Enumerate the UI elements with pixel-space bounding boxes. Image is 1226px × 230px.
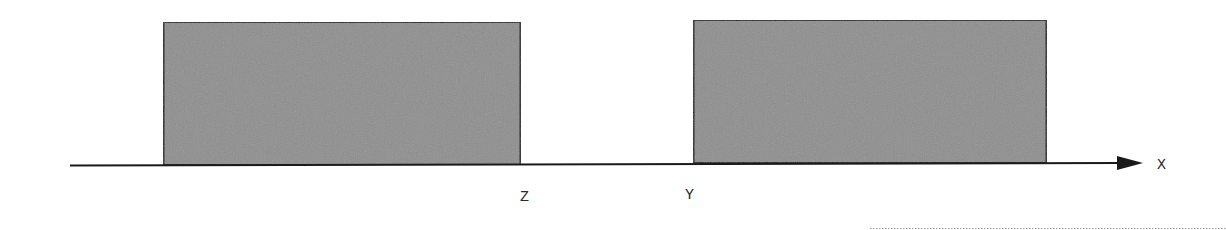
- right-interval-block: [694, 20, 1047, 163]
- label-z: Z: [520, 190, 529, 205]
- diagram-svg: [0, 0, 1226, 230]
- label-x-axis: X: [1157, 158, 1166, 173]
- label-y: Y: [685, 188, 694, 203]
- left-interval-block: [164, 22, 521, 165]
- diagram-canvas: Z Y X: [0, 0, 1226, 230]
- x-axis-arrow-icon: [1117, 156, 1143, 170]
